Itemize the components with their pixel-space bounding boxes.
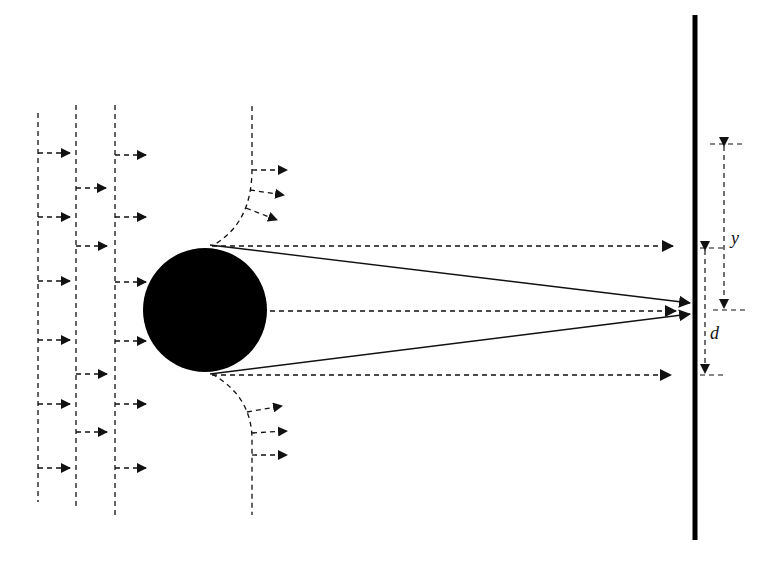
- upstream-streamlines: [38, 105, 115, 515]
- velocity-arrow: [247, 406, 282, 412]
- upper-converging-line: [210, 245, 690, 303]
- lower-deflected-streamline: [212, 374, 252, 515]
- projection-rays: [212, 246, 676, 375]
- d-label: d: [710, 323, 720, 343]
- flow-diagram: y d: [0, 0, 778, 561]
- converging-lines: [210, 245, 690, 374]
- velocity-arrows-upstream: [38, 153, 146, 468]
- velocity-arrow: [252, 431, 287, 433]
- particle: [143, 248, 267, 372]
- lower-converging-line: [210, 314, 690, 374]
- dimension-ticks: [700, 144, 746, 375]
- diagram-canvas: y d: [0, 0, 778, 561]
- y-label: y: [729, 228, 739, 248]
- velocity-arrow: [250, 190, 284, 195]
- velocity-arrow: [246, 208, 277, 220]
- upper-deflected-streamline: [212, 106, 252, 246]
